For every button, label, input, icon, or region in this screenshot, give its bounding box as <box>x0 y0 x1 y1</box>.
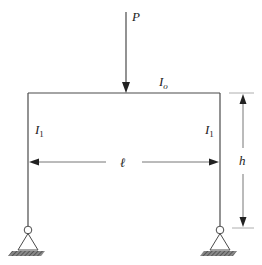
ground-hatch-icon <box>200 251 237 256</box>
left-pin-support <box>8 226 45 256</box>
pin-icon <box>216 226 224 234</box>
span-label: ℓ <box>120 155 126 170</box>
arrowhead-right-icon <box>209 159 219 166</box>
height-label: h <box>239 153 246 168</box>
arrowhead-up-icon <box>240 94 247 104</box>
load-label: P <box>131 9 140 24</box>
pin-icon <box>24 226 32 234</box>
right-pin-support <box>200 226 237 256</box>
left-column-inertia-label: I1 <box>34 122 44 139</box>
portal-frame-diagram: P Io I1 I1 ℓ h <box>0 0 262 265</box>
arrowhead-left-icon <box>29 159 39 166</box>
arrowhead-down-icon <box>240 217 247 227</box>
beam-inertia-label: Io <box>158 74 168 91</box>
right-column-inertia-label: I1 <box>204 122 214 139</box>
load-arrow <box>122 12 130 93</box>
arrowhead-down-icon <box>122 82 130 93</box>
ground-hatch-icon <box>8 251 45 256</box>
